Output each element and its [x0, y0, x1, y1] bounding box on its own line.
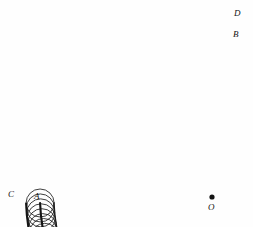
point-label-d: D	[234, 9, 241, 18]
inner-envelope-arc	[54, 203, 166, 227]
point-label-c: C	[8, 190, 14, 199]
circle-family-group	[26, 189, 176, 227]
geometry-figure: D B C A O	[0, 0, 253, 227]
centre-of-curvature-dot	[209, 194, 214, 199]
family-circle	[30, 218, 58, 227]
point-label-b: B	[233, 30, 239, 39]
centre-locus-arc-ab	[40, 203, 162, 227]
point-label-o: O	[208, 203, 215, 212]
point-label-a: A	[34, 192, 40, 201]
